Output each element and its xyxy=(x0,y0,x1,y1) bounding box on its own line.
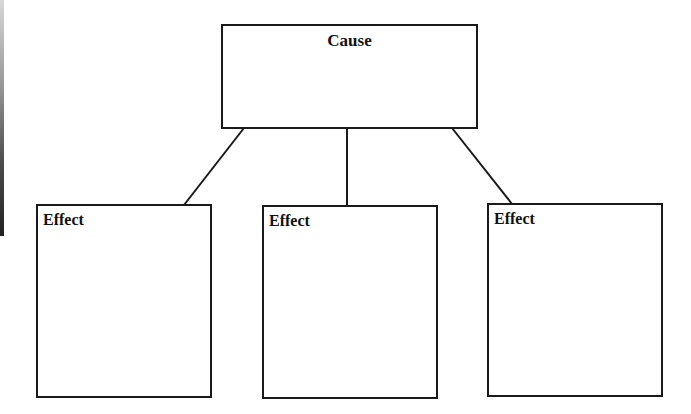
effect-label-middle: Effect xyxy=(269,212,310,230)
connector-cause-to-effect-left xyxy=(184,128,244,205)
effect-box-right: Effect xyxy=(487,203,663,397)
effect-box-middle: Effect xyxy=(262,205,438,399)
page-edge-shadow xyxy=(0,0,4,236)
connector-cause-to-effect-right xyxy=(452,128,512,204)
cause-box: Cause xyxy=(221,24,478,129)
effect-box-left: Effect xyxy=(36,204,212,398)
cause-label: Cause xyxy=(223,31,476,51)
effect-label-right: Effect xyxy=(494,210,535,228)
effect-label-left: Effect xyxy=(43,211,84,229)
